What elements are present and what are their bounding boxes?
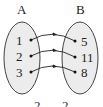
set-b-element: 8 [81,66,88,79]
partial-text: 2 [34,99,41,107]
set-a-element: 1 [16,34,23,47]
partial-text: 2 [62,99,69,107]
set-b-element: 11 [81,51,94,64]
set-b-label: B [76,3,85,16]
set-b-element: 5 [81,35,88,48]
set-a-label: A [17,3,26,16]
set-a-element: 2 [16,50,23,63]
set-a-element: 3 [16,66,23,79]
